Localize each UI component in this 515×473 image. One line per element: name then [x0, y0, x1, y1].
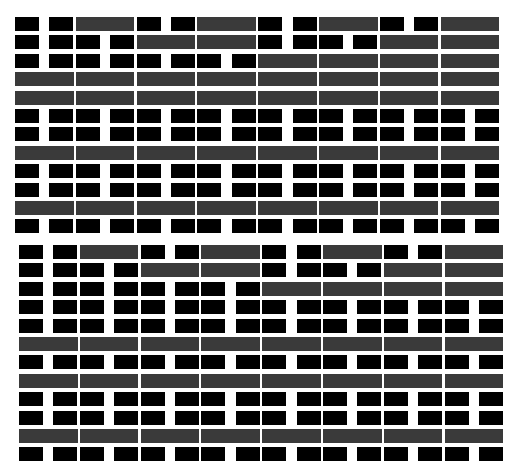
gray-bar: [19, 337, 78, 351]
gray-bar: [76, 17, 135, 31]
black-block: [323, 447, 347, 461]
black-block: [53, 245, 77, 259]
black-block: [49, 127, 73, 141]
gray-bar: [445, 337, 504, 351]
black-block: [441, 127, 465, 141]
black-block: [262, 447, 286, 461]
black-block: [479, 319, 503, 333]
black-block: [236, 319, 260, 333]
black-block: [353, 183, 377, 197]
black-block: [114, 392, 138, 406]
gray-bar: [441, 17, 500, 31]
black-block: [141, 411, 165, 425]
black-block: [258, 127, 282, 141]
black-block: [357, 447, 381, 461]
black-block: [171, 54, 195, 68]
black-block: [418, 355, 442, 369]
black-block: [380, 17, 404, 31]
black-block: [445, 355, 469, 369]
gray-bar: [258, 201, 317, 215]
black-block: [114, 355, 138, 369]
gray-bar: [262, 337, 321, 351]
gray-bar: [445, 429, 504, 443]
black-block: [418, 300, 442, 314]
black-block: [15, 127, 39, 141]
black-block: [258, 219, 282, 233]
gray-bar: [445, 263, 504, 277]
black-block: [197, 164, 221, 178]
black-block: [258, 17, 282, 31]
gray-bar: [80, 337, 139, 351]
black-block: [53, 411, 77, 425]
gray-bar: [441, 35, 500, 49]
black-block: [479, 392, 503, 406]
gray-bar: [258, 91, 317, 105]
black-block: [293, 109, 317, 123]
black-block: [232, 183, 256, 197]
black-block: [319, 219, 343, 233]
black-block: [76, 35, 100, 49]
gray-bar: [197, 201, 256, 215]
gray-bar: [380, 146, 439, 160]
black-block: [262, 263, 286, 277]
black-block: [49, 219, 73, 233]
black-block: [479, 411, 503, 425]
black-block: [19, 282, 43, 296]
black-block: [319, 127, 343, 141]
black-block: [357, 300, 381, 314]
black-block: [297, 263, 321, 277]
gray-bar: [137, 35, 196, 49]
black-block: [201, 300, 225, 314]
gray-bar: [380, 91, 439, 105]
black-block: [141, 282, 165, 296]
gray-bar: [384, 263, 443, 277]
gray-bar: [197, 72, 256, 86]
gray-bar: [384, 374, 443, 388]
black-block: [418, 319, 442, 333]
black-block: [201, 282, 225, 296]
black-block: [414, 127, 438, 141]
black-block: [110, 183, 134, 197]
black-block: [445, 447, 469, 461]
black-block: [293, 17, 317, 31]
black-block: [53, 447, 77, 461]
black-block: [19, 300, 43, 314]
black-block: [353, 35, 377, 49]
black-block: [297, 392, 321, 406]
gray-bar: [15, 201, 74, 215]
black-block: [15, 54, 39, 68]
black-block: [236, 411, 260, 425]
black-block: [19, 392, 43, 406]
black-block: [175, 282, 199, 296]
black-block: [357, 319, 381, 333]
black-block: [49, 35, 73, 49]
gray-bar: [262, 282, 321, 296]
gray-bar: [319, 54, 378, 68]
gray-bar: [319, 72, 378, 86]
black-block: [197, 219, 221, 233]
black-block: [19, 263, 43, 277]
gray-bar: [141, 374, 200, 388]
black-block: [262, 411, 286, 425]
black-block: [76, 127, 100, 141]
gray-bar: [441, 72, 500, 86]
black-block: [171, 219, 195, 233]
black-block: [80, 300, 104, 314]
gray-bar: [441, 201, 500, 215]
black-block: [175, 245, 199, 259]
black-block: [110, 164, 134, 178]
black-block: [357, 411, 381, 425]
gray-bar: [19, 429, 78, 443]
gray-bar: [380, 201, 439, 215]
gray-bar: [80, 374, 139, 388]
black-block: [49, 109, 73, 123]
black-block: [319, 35, 343, 49]
gray-bar: [319, 91, 378, 105]
black-block: [297, 411, 321, 425]
black-block: [201, 392, 225, 406]
black-block: [384, 300, 408, 314]
black-block: [418, 392, 442, 406]
black-block: [80, 447, 104, 461]
black-block: [80, 282, 104, 296]
black-block: [137, 219, 161, 233]
